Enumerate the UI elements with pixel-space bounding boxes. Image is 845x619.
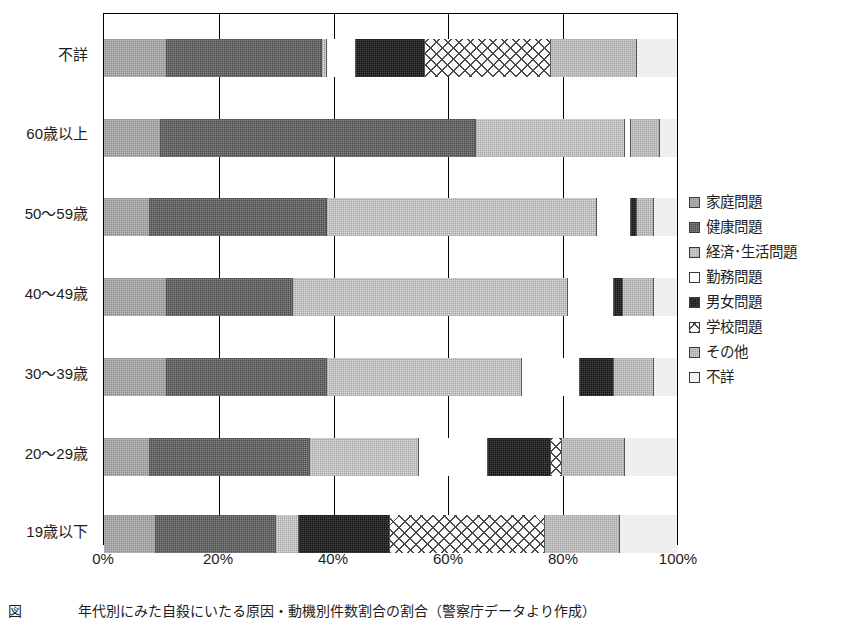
legend-label-gakko: 学校問題 [706, 320, 762, 335]
bar-segment-fusho [654, 278, 677, 316]
xtick-label-80: 80% [548, 551, 578, 566]
legend: 家庭問題 健康問題 経済･生活問題 勤務問題 男女問題 学校問題 その他 不詳 [689, 190, 839, 390]
legend-swatch-kinmu-icon [689, 272, 700, 283]
bar-segment-kenko [167, 278, 293, 316]
ytick-label-40s: 40～49歳 [25, 286, 88, 301]
ytick-label-60plus: 60歳以上 [26, 126, 88, 141]
legend-swatch-keizai-icon [689, 247, 700, 258]
ytick-label-30s: 30～39歳 [25, 366, 88, 381]
ytick-label-20s: 20～29歳 [25, 446, 88, 461]
legend-label-kinmu: 勤務問題 [706, 270, 762, 285]
figure-caption: 図 年代別にみた自殺にいたる原因・動機別件数割合の割合（警察庁データより作成） [8, 603, 838, 619]
bar-segment-kinmu [522, 358, 579, 396]
bar-segment-sonota [614, 358, 654, 396]
legend-swatch-katei-icon [689, 197, 700, 208]
legend-item-danjo[interactable]: 男女問題 [689, 290, 839, 315]
bar-segment-katei [104, 198, 150, 236]
legend-label-katei: 家庭問題 [706, 195, 762, 210]
xtick-label-60: 60% [433, 551, 463, 566]
bar-segment-katei [104, 278, 167, 316]
bar-segment-gakko [425, 39, 551, 77]
legend-swatch-fusho-icon [689, 372, 700, 383]
bar-segment-fusho [620, 515, 677, 553]
bar-row [104, 119, 677, 157]
legend-item-sonota[interactable]: その他 [689, 340, 839, 365]
plot-area [103, 13, 678, 545]
bar-row [104, 515, 677, 553]
bar-segment-katei [104, 438, 150, 476]
bar-segment-danjo [580, 358, 614, 396]
xtick-label-20: 20% [203, 551, 233, 566]
bar-segment-kenko [150, 198, 328, 236]
bar-segment-katei [104, 39, 167, 77]
legend-swatch-sonota-icon [689, 347, 700, 358]
bar-segment-kinmu [419, 438, 488, 476]
bar-segment-sonota [551, 39, 637, 77]
bar-row [104, 39, 677, 77]
bar-segment-kenko [167, 39, 322, 77]
legend-item-katei[interactable]: 家庭問題 [689, 190, 839, 215]
xtick-label-100: 100% [659, 551, 697, 566]
xtick-label-40: 40% [318, 551, 348, 566]
bar-segment-fusho [660, 119, 677, 157]
bar-segment-sonota [637, 198, 654, 236]
legend-label-keizai: 経済･生活問題 [706, 245, 797, 260]
bar-segment-kenko [156, 515, 276, 553]
ytick-label-fusho: 不詳 [58, 47, 88, 62]
bar-segment-katei [104, 358, 167, 396]
legend-item-kinmu[interactable]: 勤務問題 [689, 265, 839, 290]
bar-segment-kinmu [568, 278, 614, 316]
bar-segment-danjo [488, 438, 551, 476]
ytick-label-50s: 50～59歳 [25, 206, 88, 221]
bar-segment-kenko [161, 119, 476, 157]
bar-segment-katei [104, 119, 161, 157]
legend-item-gakko[interactable]: 学校問題 [689, 315, 839, 340]
bar-segment-gakko [390, 515, 545, 553]
bar-segment-danjo [614, 278, 623, 316]
bar-segment-keizai [327, 358, 522, 396]
bar-row [104, 278, 677, 316]
legend-label-sonota: その他 [706, 345, 748, 360]
bar-segment-sonota [562, 438, 625, 476]
bar-segment-fusho [637, 39, 677, 77]
bar-row [104, 198, 677, 236]
bar-segment-keizai [476, 119, 625, 157]
bar-segment-keizai [293, 278, 568, 316]
bar-segment-fusho [625, 438, 677, 476]
legend-item-fusho[interactable]: 不詳 [689, 365, 839, 390]
bar-segment-keizai [327, 198, 596, 236]
bar-segment-katei [104, 515, 156, 553]
bar-segment-kinmu [597, 198, 631, 236]
bar-segment-gakko [551, 438, 562, 476]
bar-segment-sonota [631, 119, 660, 157]
ytick-label-19minus: 19歳以下 [26, 524, 88, 539]
legend-swatch-kenko-icon [689, 222, 700, 233]
xtick-label-0: 0% [92, 551, 114, 566]
bar-row [104, 438, 677, 476]
legend-item-keizai[interactable]: 経済･生活問題 [689, 240, 839, 265]
bar-segment-sonota [623, 278, 655, 316]
legend-label-fusho: 不詳 [706, 370, 734, 385]
legend-label-kenko: 健康問題 [706, 220, 762, 235]
bar-segment-kenko [167, 358, 327, 396]
bar-segment-keizai [310, 438, 419, 476]
bar-segment-danjo [299, 515, 391, 553]
legend-item-kenko[interactable]: 健康問題 [689, 215, 839, 240]
bar-segment-keizai [276, 515, 299, 553]
legend-swatch-danjo-icon [689, 297, 700, 308]
bar-segment-kenko [150, 438, 310, 476]
bar-segment-sonota [545, 515, 619, 553]
legend-label-danjo: 男女問題 [706, 295, 762, 310]
bar-segment-fusho [654, 198, 677, 236]
legend-swatch-gakko-icon [689, 322, 700, 333]
bar-segment-kinmu [327, 39, 356, 77]
bar-row [104, 358, 677, 396]
bar-segment-danjo [356, 39, 425, 77]
bar-segment-fusho [654, 358, 677, 396]
